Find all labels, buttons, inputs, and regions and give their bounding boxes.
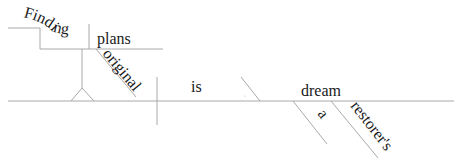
object-modifier-word: original [99,45,145,95]
gerund-word: Finding [22,3,70,38]
possessive-word: restorer's [348,97,397,153]
sentence-diagram: Finding plans original is dream a restor… [0,0,459,162]
pedestal-left-leg [71,88,82,101]
gerund-word-group: Finding [22,3,70,38]
verb-word: is [191,78,202,95]
predicate-nominative-separator [241,77,260,101]
predicate-nominative-word: dream [301,82,342,99]
article-modifier-line [293,101,327,144]
article-word: a [315,105,333,121]
stray-dot [244,95,245,96]
pedestal-right-leg [82,88,94,101]
